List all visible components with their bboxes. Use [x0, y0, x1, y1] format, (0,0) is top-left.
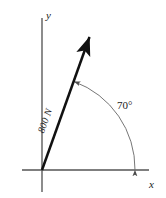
y-axis-label: y: [45, 9, 51, 21]
force-vector-figure: y x 70° 800 N: [0, 0, 166, 198]
angle-value-label: 70°: [117, 99, 132, 111]
figure-canvas: y x 70° 800 N: [0, 0, 166, 198]
figure-background: [0, 0, 166, 198]
x-axis-label: x: [148, 178, 154, 190]
